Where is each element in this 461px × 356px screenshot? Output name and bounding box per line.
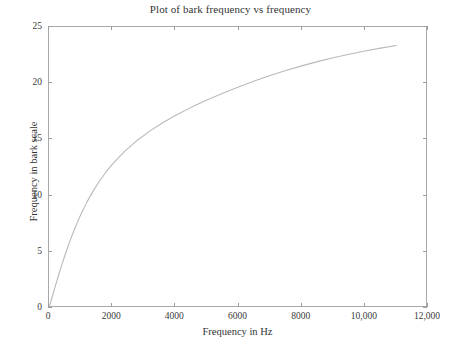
x-tick-label: 2000 bbox=[102, 311, 121, 321]
x-tick-mark bbox=[301, 303, 302, 307]
x-tick-mark bbox=[238, 26, 239, 30]
x-tick-label: 0 bbox=[46, 311, 51, 321]
y-tick-label: 15 bbox=[42, 133, 52, 143]
x-tick-mark bbox=[427, 26, 428, 30]
y-tick-mark bbox=[423, 82, 427, 83]
y-axis-label: Frequency in bark scale bbox=[28, 82, 39, 262]
x-tick-mark bbox=[364, 26, 365, 30]
y-tick-mark bbox=[423, 26, 427, 27]
y-tick-mark bbox=[423, 307, 427, 308]
y-tick-mark bbox=[423, 251, 427, 252]
chart-title: Plot of bark frequency vs frequency bbox=[0, 3, 461, 15]
chart-figure: Plot of bark frequency vs frequency 0200… bbox=[0, 0, 461, 356]
x-tick-label: 4000 bbox=[165, 311, 184, 321]
y-tick-mark bbox=[423, 138, 427, 139]
bark-curve bbox=[49, 27, 428, 308]
x-tick-label: 8000 bbox=[291, 311, 310, 321]
x-axis-label: Frequency in Hz bbox=[48, 326, 427, 337]
y-tick-mark bbox=[48, 251, 52, 252]
x-tick-mark bbox=[238, 303, 239, 307]
y-tick-label: 0 bbox=[42, 302, 47, 312]
x-tick-mark bbox=[111, 303, 112, 307]
x-tick-label: 10,000 bbox=[351, 311, 377, 321]
x-tick-mark bbox=[364, 303, 365, 307]
x-tick-label: 12,000 bbox=[414, 311, 440, 321]
y-tick-label: 20 bbox=[42, 77, 52, 87]
y-tick-label: 25 bbox=[42, 21, 52, 31]
x-tick-mark bbox=[301, 26, 302, 30]
y-tick-label: 10 bbox=[42, 190, 52, 200]
y-tick-mark bbox=[48, 307, 52, 308]
x-tick-mark bbox=[174, 26, 175, 30]
y-tick-label: 5 bbox=[42, 246, 47, 256]
plot-area bbox=[48, 26, 427, 307]
y-tick-mark bbox=[423, 195, 427, 196]
x-tick-mark bbox=[427, 303, 428, 307]
x-tick-label: 6000 bbox=[228, 311, 247, 321]
x-tick-mark bbox=[111, 26, 112, 30]
x-tick-mark bbox=[174, 303, 175, 307]
